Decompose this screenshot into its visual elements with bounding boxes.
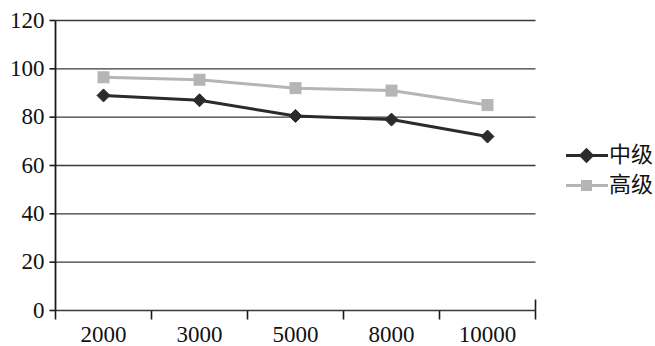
legend-key-diamond-icon — [566, 146, 608, 164]
y-tick-label: 100 — [10, 57, 45, 80]
x-tick-label: 8000 — [344, 323, 440, 346]
legend-key-square-icon — [566, 176, 608, 194]
x-tick-label: 10000 — [440, 323, 536, 346]
y-tick-label: 60 — [22, 154, 45, 177]
legend-item-1[interactable]: 高级 — [566, 170, 655, 200]
y-tick-label: 80 — [22, 105, 45, 128]
legend-label-1: 高级 — [609, 174, 653, 196]
y-tick-label: 120 — [10, 9, 45, 32]
legend-label-0: 中级 — [609, 144, 653, 166]
y-tick-label: 40 — [22, 202, 45, 225]
chart-legend: 中级 高级 — [566, 140, 655, 200]
legend-item-0[interactable]: 中级 — [566, 140, 655, 170]
y-tick-label: 0 — [33, 299, 45, 322]
x-tick-label: 5000 — [248, 323, 344, 346]
y-tick-label: 20 — [22, 250, 45, 273]
x-tick-label: 3000 — [152, 323, 248, 346]
x-tick-label: 2000 — [56, 323, 152, 346]
